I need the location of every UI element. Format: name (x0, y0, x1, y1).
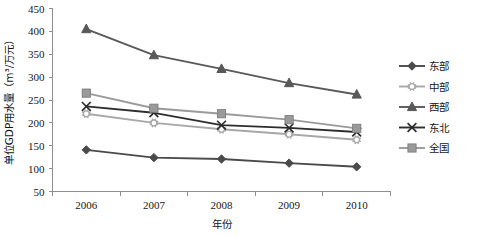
y-tick-label: 200 (28, 117, 45, 129)
data-point-marker-square (285, 116, 293, 124)
data-point-marker-square (408, 144, 416, 152)
y-tick-label: 350 (28, 48, 45, 60)
y-tick-label: 450 (28, 3, 45, 15)
data-point-marker-triangle (82, 24, 91, 33)
y-axis-title: 单位GDP用水量（m³/万元） (3, 35, 15, 166)
series-1 (82, 146, 361, 171)
x-tick-label: 2008 (211, 199, 234, 211)
legend-item-东北[interactable]: 东北 (399, 122, 450, 134)
legend-item-中部[interactable]: 中部 (399, 81, 449, 93)
legend-label: 东部 (429, 60, 449, 72)
y-axis-tick-labels: 45040035030025020015010050 (28, 3, 45, 198)
y-tick-label: 400 (28, 25, 45, 37)
x-tick-label: 2009 (278, 199, 301, 211)
data-point-marker-circle-star (82, 109, 90, 117)
data-point-marker-square (353, 124, 361, 132)
y-tick-label: 300 (28, 71, 45, 83)
y-tick-label: 50 (34, 186, 46, 198)
data-point-marker-diamond (353, 163, 361, 171)
data-point-marker-circle-star (352, 136, 360, 144)
legend-item-西部[interactable]: 西部 (399, 101, 449, 113)
data-point-marker-square (150, 104, 158, 112)
legend-item-全国[interactable]: 全国 (399, 142, 449, 154)
x-tick-label: 2006 (75, 199, 98, 211)
legend-label: 西部 (429, 101, 449, 113)
chart-container: 45040035030025020015010050 2006200720082… (0, 0, 479, 236)
x-axis-title: 年份 (212, 218, 233, 230)
legend-label: 中部 (429, 81, 449, 93)
data-point-marker-diamond (285, 159, 293, 167)
data-point-marker-circle-star (408, 82, 416, 90)
x-tick-label: 2010 (346, 199, 369, 211)
data-point-marker-square (217, 110, 225, 118)
x-tick-label: 2007 (143, 199, 166, 211)
chart-series-layer (82, 24, 362, 171)
data-point-marker-circle-star (150, 119, 158, 127)
chart-axes (49, 9, 391, 196)
series-3 (82, 24, 362, 98)
y-tick-label: 100 (28, 163, 45, 175)
data-point-marker-diamond (408, 62, 416, 70)
legend-label: 全国 (429, 142, 449, 154)
legend-label: 东北 (429, 122, 450, 134)
legend-item-东部[interactable]: 东部 (399, 60, 449, 72)
chart-legend: 东部中部西部东北全国 (399, 60, 450, 154)
data-point-marker-square (82, 89, 90, 97)
data-point-marker-diamond (150, 153, 158, 161)
chart-canvas: 45040035030025020015010050 2006200720082… (0, 0, 479, 236)
x-axis-tick-labels: 20062007200820092010 (75, 199, 368, 211)
y-tick-label: 250 (28, 94, 45, 106)
data-point-marker-diamond (82, 146, 90, 154)
y-tick-label: 150 (28, 140, 45, 152)
data-point-marker-diamond (217, 155, 225, 163)
